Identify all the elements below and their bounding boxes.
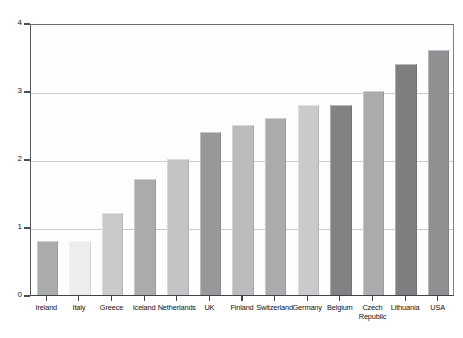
bar-finland xyxy=(232,125,254,295)
bar-iceland xyxy=(134,179,156,295)
bar-body xyxy=(363,91,385,295)
bar-italy xyxy=(69,241,91,295)
plot-area xyxy=(30,24,454,296)
x-tick-lithuania xyxy=(405,296,406,301)
gridline-3 xyxy=(31,93,453,94)
bar-body xyxy=(200,132,222,295)
x-label-line: Italy xyxy=(72,303,85,312)
x-label-line: Czech xyxy=(362,303,382,312)
x-tick-uk xyxy=(209,296,210,301)
x-tick-germany xyxy=(307,296,308,301)
divorce-rate-bar-chart: number of annual divorces per 1,000 popu… xyxy=(0,0,463,338)
y-tick-label-wrap-0: 0 xyxy=(0,291,22,301)
bar-body xyxy=(37,241,59,295)
bar-ireland xyxy=(37,241,59,295)
bar-switzerland xyxy=(265,118,287,295)
x-label-line: Belgium xyxy=(327,303,353,312)
x-label-line: Finland xyxy=(230,303,253,312)
x-label-line: Republic xyxy=(350,312,395,321)
y-tick-label-2: 2 xyxy=(0,155,22,163)
bar-body xyxy=(428,50,450,295)
bar-germany xyxy=(298,105,320,295)
bar-body xyxy=(330,105,352,295)
bar-body xyxy=(265,118,287,295)
bar-body xyxy=(298,105,320,295)
x-tick-iceland xyxy=(144,296,145,301)
bar-usa xyxy=(428,50,450,295)
bar-body xyxy=(69,241,91,295)
bar-body xyxy=(167,159,189,295)
bar-belgium xyxy=(330,105,352,295)
bar-uk xyxy=(200,132,222,295)
x-tick-ireland xyxy=(46,296,47,301)
bar-body xyxy=(395,64,417,295)
y-tick-label-wrap-3: 3 xyxy=(0,87,22,97)
y-tick-label-4: 4 xyxy=(0,19,22,27)
bar-netherlands xyxy=(167,159,189,295)
bar-lithuania xyxy=(395,64,417,295)
x-label-line: USA xyxy=(430,303,445,312)
bar-greece xyxy=(102,213,124,295)
bar-body xyxy=(134,179,156,295)
x-tick-czech-republic xyxy=(372,296,373,301)
y-tick-label-wrap-2: 2 xyxy=(0,155,22,165)
y-tick-label-wrap-4: 4 xyxy=(0,19,22,29)
x-tick-usa xyxy=(437,296,438,301)
x-tick-finland xyxy=(241,296,242,301)
x-tick-switzerland xyxy=(274,296,275,301)
x-label-line: Ireland xyxy=(36,303,58,312)
x-label-line: Greece xyxy=(100,303,123,312)
bar-czech-republic xyxy=(363,91,385,295)
x-label-line: Iceland xyxy=(133,303,156,312)
y-tick-label-1: 1 xyxy=(0,223,22,231)
x-axis-label-usa: USA xyxy=(415,303,460,312)
bar-body xyxy=(102,213,124,295)
y-tick-label-wrap-1: 1 xyxy=(0,223,22,233)
x-label-line: UK xyxy=(204,303,214,312)
y-tick-label-0: 0 xyxy=(0,291,22,299)
x-tick-italy xyxy=(78,296,79,301)
x-tick-belgium xyxy=(339,296,340,301)
x-tick-netherlands xyxy=(176,296,177,301)
y-tick-label-3: 3 xyxy=(0,87,22,95)
x-tick-greece xyxy=(111,296,112,301)
bar-body xyxy=(232,125,254,295)
